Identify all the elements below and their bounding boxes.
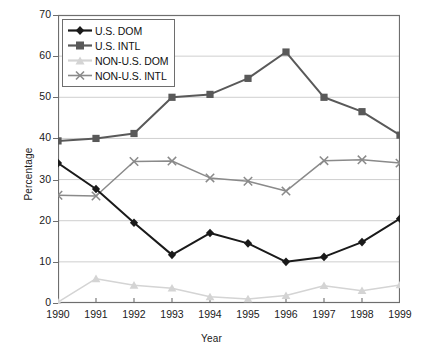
chart-legend: U.S. DOM U.S. INTL NON-U.S. DOM NON-U.S.… [62,19,175,87]
legend-label-nonus-dom: NON-U.S. DOM [93,55,168,67]
marker-diamond [320,253,328,262]
y-tickmark [53,180,58,181]
series-line-non-u-s-intl [58,160,400,196]
y-tick-label: 70 [39,8,51,20]
marker-square [320,94,327,101]
marker-square [130,130,137,137]
legend-key-triangle-icon [67,54,93,67]
x-tick-label: 1995 [228,308,268,320]
marker-square [396,132,400,139]
x-axis-title: Year [0,333,423,344]
marker-diamond [358,238,366,247]
marker-square [92,135,99,142]
y-tick-label: 50 [39,90,51,102]
legend-item-us-dom: U.S. DOM [67,23,168,38]
line-chart: Percentage Year U.S. DOM U.S. INTL NON-U… [0,0,423,347]
y-tick-label: 60 [39,49,51,61]
x-tick-label: 1991 [76,308,116,320]
marker-square [282,48,289,55]
legend-item-nonus-dom: NON-U.S. DOM [67,53,168,68]
y-axis-title: Percentage [23,147,34,200]
y-tickmark [53,15,58,16]
marker-triangle [320,282,329,290]
y-tick-label: 0 [45,296,51,308]
y-tickmark [53,138,58,139]
series-line-u-s-dom [58,163,400,262]
legend-item-nonus-intl: NON-U.S. INTL [67,68,168,83]
marker-square [168,94,175,101]
marker-square [58,137,62,144]
marker-diamond [206,229,214,238]
marker-diamond [282,258,290,267]
legend-item-us-intl: U.S. INTL [67,38,168,53]
y-tickmark [53,303,58,304]
x-tick-label: 1990 [38,308,78,320]
x-tick-label: 1992 [114,308,154,320]
x-tick-label: 1994 [190,308,230,320]
legend-key-diamond-icon [67,24,93,37]
x-tick-label: 1998 [342,308,382,320]
marker-diamond [244,239,252,248]
y-tickmark [53,97,58,98]
x-tick-label: 1996 [266,308,306,320]
legend-label-us-dom: U.S. DOM [93,25,142,37]
x-tick-label: 1997 [304,308,344,320]
y-tickmark [53,221,58,222]
series-line-non-u-s-dom [58,279,400,302]
x-tick-label: 1999 [380,308,420,320]
y-tick-label: 40 [39,131,51,143]
marker-triangle [92,275,101,283]
y-tick-label: 30 [39,173,51,185]
y-tickmark [53,262,58,263]
legend-key-square-icon [67,39,93,52]
legend-key-x-icon [67,69,93,82]
marker-square [358,108,365,115]
y-tick-label: 20 [39,214,51,226]
y-tickmark [53,56,58,57]
y-tick-label: 10 [39,255,51,267]
marker-square [206,91,213,98]
legend-label-us-intl: U.S. INTL [93,40,140,52]
legend-label-nonus-intl: NON-U.S. INTL [93,70,167,82]
marker-square [244,75,251,82]
x-tick-label: 1993 [152,308,192,320]
